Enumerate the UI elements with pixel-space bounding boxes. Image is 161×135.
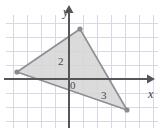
y-tick-label-2: 2 <box>58 56 64 67</box>
origin-label: 0 <box>70 80 76 91</box>
x-tick-label-3: 3 <box>101 90 107 101</box>
graph-canvas <box>0 0 161 135</box>
x-axis-arrow-icon <box>147 75 155 84</box>
x-axis-label: x <box>148 88 153 100</box>
vertex-dot-top <box>77 26 82 31</box>
vertex-dot-bottom-right <box>124 107 129 112</box>
coordinate-plane-figure: y x 2 0 3 <box>0 0 161 135</box>
y-axis-label: y <box>63 6 68 18</box>
vertex-dot-left <box>14 69 19 74</box>
